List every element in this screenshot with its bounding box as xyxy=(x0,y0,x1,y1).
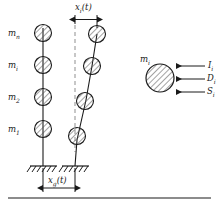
damping-force-label: Di xyxy=(207,74,216,85)
figure-canvas xyxy=(0,0,219,204)
undeformed-column xyxy=(35,25,52,167)
base-support-right xyxy=(59,166,89,172)
mass-label-n: mn xyxy=(8,29,20,40)
displacement-label-xi: xi(t) xyxy=(75,3,92,14)
deformed-column xyxy=(69,26,106,167)
free-body-mass-label: mi xyxy=(140,55,150,66)
mass-label-i: mi xyxy=(8,61,18,72)
force-arrows xyxy=(176,66,205,92)
displacement-label-xg: xg(t) xyxy=(48,176,67,187)
mass-label-1: m1 xyxy=(8,125,20,136)
inertia-force-label: Ii xyxy=(208,61,213,72)
stiffness-force-label: Si xyxy=(207,87,215,98)
free-body-mass xyxy=(146,64,174,92)
base-support-left xyxy=(27,166,57,172)
structural-dynamics-figure: mn mi m2 m1 xi(t) xg(t) mi Ii Di Si xyxy=(0,0,219,204)
mass-label-2: m2 xyxy=(8,93,20,104)
